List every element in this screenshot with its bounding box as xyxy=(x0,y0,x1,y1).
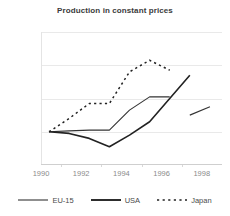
legend-item-usa[interactable]: USA xyxy=(91,196,140,205)
chart-legend: EU-15 USA Japan xyxy=(0,190,230,210)
chart-container: Production in constant prices 160 140 12… xyxy=(0,0,230,216)
x-tick-label: 1998 xyxy=(185,169,219,178)
x-tick-label: 1990 xyxy=(24,169,58,178)
series-line-usa-2 xyxy=(49,75,190,146)
legend-item-eu15[interactable]: EU-15 xyxy=(18,196,73,205)
x-tick-label: 1996 xyxy=(145,169,179,178)
legend-label-usa: USA xyxy=(125,196,140,205)
legend-item-japan[interactable]: Japan xyxy=(157,196,211,205)
series-line-eu-15-0 xyxy=(49,97,170,132)
legend-swatch-usa xyxy=(91,196,121,204)
series-line-eu-15-1 xyxy=(190,107,210,115)
x-tick-label: 1992 xyxy=(64,169,98,178)
legend-label-japan: Japan xyxy=(191,196,211,205)
series-lines xyxy=(41,32,222,165)
plot-area xyxy=(41,32,222,165)
legend-swatch-eu15 xyxy=(18,196,48,204)
x-tick-label: 1994 xyxy=(104,169,138,178)
legend-swatch-japan xyxy=(157,196,187,204)
series-line-japan-3 xyxy=(49,60,170,131)
chart-title: Production in constant prices xyxy=(0,6,230,15)
legend-label-eu15: EU-15 xyxy=(52,196,73,205)
